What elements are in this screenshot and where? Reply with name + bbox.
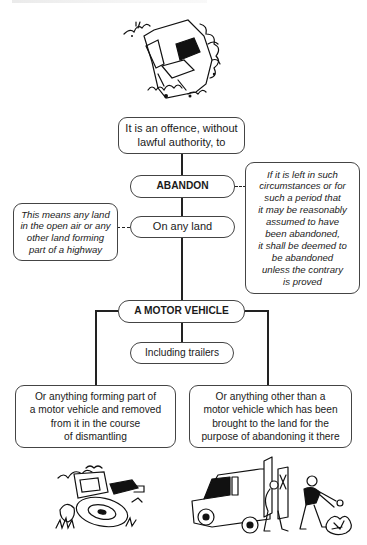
- on-any-land-label: On any land: [153, 220, 212, 233]
- abandon-label: ABANDON: [156, 180, 208, 192]
- dismantled-vehicle-parts-illustration: [52, 462, 152, 534]
- other-line-2: motor vehicle which has been: [203, 403, 337, 416]
- deemed-abandoned-note: If it is left in such circumstances or f…: [245, 162, 360, 294]
- including-trailers-box: Including trailers: [130, 342, 234, 364]
- abandoned-car-in-bushes-illustration: [118, 14, 238, 102]
- connector-vehicle-left-vertical: [95, 310, 97, 385]
- deemed-line-9: unless the contrary: [262, 264, 343, 276]
- deemed-line-6: been abandoned,: [265, 228, 340, 240]
- part-line-2: a motor vehicle and removed: [30, 403, 161, 416]
- deemed-line-8: be abandoned: [272, 252, 333, 264]
- motor-vehicle-box: A MOTOR VEHICLE: [118, 300, 245, 323]
- connector-vehicle-trailers: [181, 322, 183, 342]
- abandon-box: ABANDON: [130, 175, 235, 198]
- motor-vehicle-label: A MOTOR VEHICLE: [134, 305, 229, 317]
- deemed-line-3: such a period that: [264, 192, 340, 204]
- connector-offence-abandon: [181, 153, 183, 175]
- deemed-line-5: assumed to have: [266, 216, 339, 228]
- deemed-line-2: circumstances or for: [259, 180, 345, 192]
- other-line-4: purpose of abandoning it there: [201, 430, 339, 443]
- other-than-vehicle-box: Or anything other than a motor vehicle w…: [189, 385, 352, 448]
- land-definition-note: This means any land in the open air or a…: [13, 203, 118, 261]
- deemed-line-10: is proved: [283, 276, 322, 288]
- dashed-connector-land-note: [117, 227, 130, 228]
- other-line-3: brought to the land for the: [212, 417, 329, 430]
- land-note-line-2: in the open air or any: [20, 220, 110, 232]
- including-trailers-label: Including trailers: [145, 347, 219, 359]
- deemed-line-1: If it is left in such: [267, 169, 338, 181]
- deemed-line-7: it shall be deemed to: [258, 240, 347, 252]
- part-line-4: of dismantling: [64, 430, 127, 443]
- connector-vehicle-right-horizontal: [245, 310, 268, 312]
- offence-line-2: lawful authority, to: [138, 136, 226, 149]
- cropped-heading-fragment: [12, 0, 207, 3]
- part-of-vehicle-box: Or anything forming part of a motor vehi…: [15, 385, 176, 448]
- offence-box: It is an offence, without lawful authori…: [118, 117, 245, 154]
- on-any-land-box: On any land: [130, 216, 235, 238]
- connector-abandon-land: [181, 197, 183, 216]
- deemed-line-4: it may be reasonably: [258, 204, 347, 216]
- connector-vehicle-left-horizontal: [95, 310, 118, 312]
- van-unloading-rubbish-illustration: [188, 455, 363, 543]
- connector-land-vehicle: [181, 237, 183, 300]
- connector-vehicle-right-vertical: [267, 310, 269, 385]
- land-note-line-4: part of a highway: [29, 244, 102, 256]
- part-line-1: Or anything forming part of: [35, 390, 156, 403]
- offence-line-1: It is an offence, without: [125, 122, 237, 135]
- other-line-1: Or anything other than a: [216, 390, 326, 403]
- land-note-line-3: other land forming: [27, 232, 104, 244]
- land-note-line-1: This means any land: [21, 209, 110, 221]
- part-line-3: from it in the course: [51, 417, 140, 430]
